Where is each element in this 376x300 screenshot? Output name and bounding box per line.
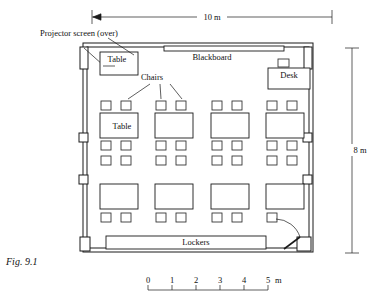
- lockers-label: Lockers: [182, 237, 209, 247]
- scale-bar-numbers: 012345: [146, 275, 270, 285]
- student-chair: [232, 213, 242, 222]
- student-chair: [176, 156, 186, 165]
- student-chair: [156, 101, 166, 110]
- student-chair: [232, 101, 242, 110]
- blackboard-shape: [164, 46, 284, 51]
- student-chair: [101, 101, 111, 110]
- pier-left-bottom: [80, 237, 90, 251]
- student-chair: [156, 141, 166, 150]
- student-chair: [121, 213, 131, 222]
- windows-right-wall: [303, 133, 312, 184]
- student-chair: [267, 213, 277, 222]
- fixed-furniture: [100, 46, 310, 249]
- student-chair: [287, 101, 297, 110]
- student-chair: [176, 141, 186, 150]
- leader-chairs: [170, 84, 182, 99]
- scale-bar-ticks: [148, 285, 268, 290]
- door-swing-arc: [276, 219, 300, 237]
- table-grid-label: Table: [113, 121, 132, 131]
- student-chair: [121, 156, 131, 165]
- dimension-width-label: 10 m: [203, 12, 221, 22]
- student-chair: [267, 156, 277, 165]
- desk-chair-shape: [278, 59, 289, 67]
- student-chair: [212, 101, 222, 110]
- student-chair: [212, 156, 222, 165]
- leader-chairs: [128, 84, 150, 99]
- student-table: [266, 113, 304, 138]
- classroom-floor-plan: 10 m 8 m Proj: [0, 0, 376, 300]
- student-table: [211, 184, 249, 209]
- scale-number: 3: [218, 275, 222, 285]
- scale-number: 1: [170, 275, 174, 285]
- student-chair: [287, 156, 297, 165]
- dimension-width-arrow: [93, 14, 101, 20]
- student-chair: [176, 213, 186, 222]
- student-chair: [212, 141, 222, 150]
- student-chair: [267, 141, 277, 150]
- pier-right-top: [304, 47, 312, 69]
- dimension-width: 10 m: [92, 10, 332, 24]
- scale-bar-unit-label: m: [275, 275, 282, 285]
- student-table: [266, 184, 304, 209]
- student-table: [155, 184, 193, 209]
- student-chair: [176, 101, 186, 110]
- scale-number: 5: [266, 275, 270, 285]
- student-chair: [101, 213, 111, 222]
- dimension-height: 8 m: [345, 48, 367, 253]
- student-chair: [101, 156, 111, 165]
- scale-bar: 012345 m: [146, 275, 282, 290]
- leader-chairs: [160, 84, 161, 99]
- window-right: [303, 175, 312, 184]
- student-table: [100, 184, 138, 209]
- student-chair: [287, 141, 297, 150]
- student-chair: [212, 213, 222, 222]
- student-table: [211, 113, 249, 138]
- window-left: [79, 133, 88, 142]
- blackboard-label: Blackboard: [192, 52, 232, 62]
- student-chair: [156, 213, 166, 222]
- student-chair: [232, 156, 242, 165]
- door: [276, 219, 300, 249]
- scale-number: 0: [146, 275, 150, 285]
- scale-number: 2: [194, 275, 198, 285]
- figure-caption: Fig. 9.1: [5, 256, 37, 267]
- desk-label: Desk: [280, 70, 298, 80]
- student-chair: [156, 156, 166, 165]
- student-chair: [121, 101, 131, 110]
- student-chair: [232, 141, 242, 150]
- dimension-height-label: 8 m: [354, 145, 367, 155]
- student-table: [155, 113, 193, 138]
- window-left: [79, 175, 88, 184]
- student-chair: [267, 101, 277, 110]
- student-chair: [101, 141, 111, 150]
- pier-right-bottom: [297, 237, 311, 251]
- corner-table-label: Table: [108, 54, 127, 64]
- scale-number: 4: [242, 275, 247, 285]
- projector-screen-label: Projector screen (over): [40, 28, 118, 38]
- student-chair: [121, 141, 131, 150]
- chairs-label: Chairs: [141, 72, 163, 82]
